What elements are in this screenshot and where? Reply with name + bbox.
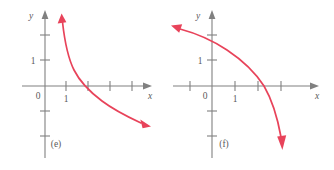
x-axis-label-e: x [147,91,153,101]
y-tick-label-1-e: 1 [31,56,36,66]
figure-root: y x 0 1 1 (e) [0,0,334,170]
curve-arrowhead-up-e [58,14,67,24]
y-axis-label-f: y [195,11,201,21]
x-tick-label-1-f: 1 [233,94,238,104]
curve-e [63,22,142,123]
y-axis-arrowhead-f [209,10,216,19]
curve-arrowhead-down-f [277,135,286,150]
x-axis-label-f: x [314,91,320,101]
x-tick-label-1-e: 1 [64,94,69,104]
panel-e: y x 0 1 1 (e) [0,0,167,170]
panel-caption-f: (f) [219,139,229,150]
x-axis-arrowhead-e [143,83,152,90]
panel-f: y x 0 1 1 (f) [167,0,334,170]
curve-f [180,29,281,137]
panel-caption-e: (e) [51,139,62,150]
curve-arrowhead-downright-e [140,120,151,129]
origin-label-f: 0 [203,91,208,101]
origin-label-e: 0 [36,91,41,101]
y-axis-label-e: y [28,11,34,21]
y-tick-label-1-f: 1 [198,56,203,66]
y-axis-arrowhead-e [42,10,49,19]
curve-arrowhead-upleft-f [171,24,182,33]
x-axis-arrowhead-f [310,83,319,90]
